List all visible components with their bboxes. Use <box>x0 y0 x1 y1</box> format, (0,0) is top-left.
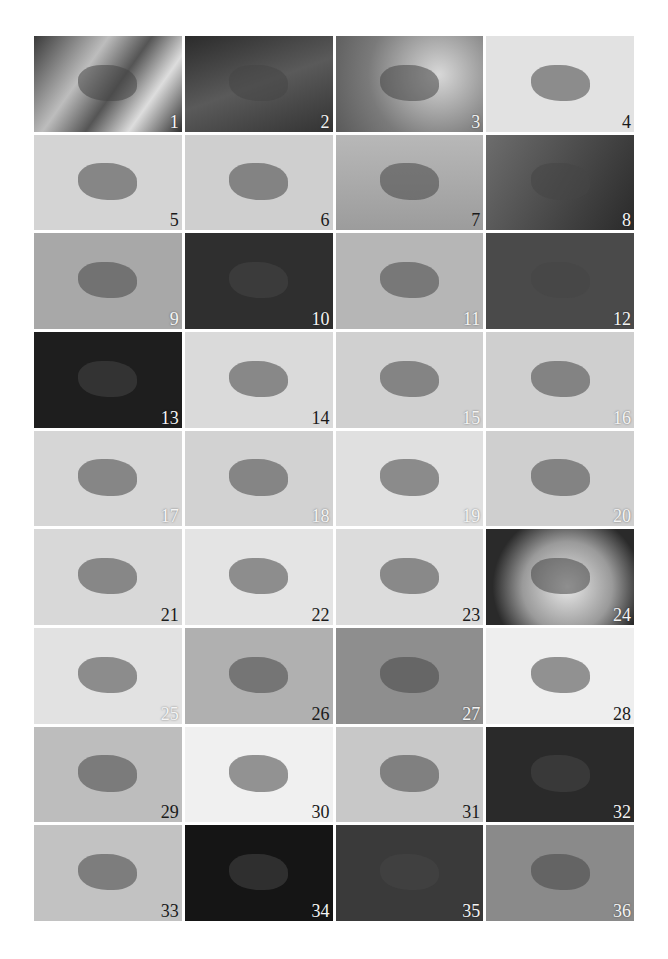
panel-number: 19 <box>462 507 480 525</box>
panel-number: 12 <box>613 310 631 328</box>
specimen-image <box>229 163 288 199</box>
specimen-image <box>380 65 439 101</box>
specimen-image <box>380 558 439 594</box>
specimen-image <box>531 459 590 495</box>
plate-panel-12: 12 <box>486 233 634 329</box>
specimen-image <box>229 558 288 594</box>
panel-number: 28 <box>613 705 631 723</box>
plate-panel-8: 8 <box>486 135 634 231</box>
plate-panel-15: 15 <box>336 332 484 428</box>
panel-number: 21 <box>161 606 179 624</box>
panel-number: 11 <box>463 310 480 328</box>
panel-number: 27 <box>462 705 480 723</box>
specimen-image <box>380 755 439 791</box>
plate-panel-35: 35 <box>336 825 484 921</box>
panel-number: 15 <box>462 409 480 427</box>
specimen-image <box>229 755 288 791</box>
panel-number: 3 <box>471 113 480 131</box>
specimen-image <box>380 361 439 397</box>
plate-panel-28: 28 <box>486 628 634 724</box>
panel-number: 6 <box>321 211 330 229</box>
plate-panel-6: 6 <box>185 135 333 231</box>
plate-panel-3: 3 <box>336 36 484 132</box>
plate-panel-24: 24 <box>486 529 634 625</box>
specimen-image <box>380 163 439 199</box>
plate-panel-27: 27 <box>336 628 484 724</box>
panel-number: 18 <box>312 507 330 525</box>
plate-panel-26: 26 <box>185 628 333 724</box>
plate-panel-17: 17 <box>34 431 182 527</box>
specimen-image <box>78 854 137 890</box>
panel-number: 14 <box>312 409 330 427</box>
panel-number: 1 <box>170 113 179 131</box>
specimen-image <box>78 262 137 298</box>
panel-number: 10 <box>312 310 330 328</box>
photo-plate: 1234567891011121314151617181920212223242… <box>34 36 634 921</box>
specimen-image <box>78 65 137 101</box>
panel-number: 13 <box>161 409 179 427</box>
plate-panel-20: 20 <box>486 431 634 527</box>
specimen-image <box>229 65 288 101</box>
specimen-image <box>229 459 288 495</box>
plate-panel-30: 30 <box>185 727 333 823</box>
plate-panel-33: 33 <box>34 825 182 921</box>
plate-panel-31: 31 <box>336 727 484 823</box>
panel-number: 35 <box>462 902 480 920</box>
specimen-image <box>531 558 590 594</box>
plate-panel-32: 32 <box>486 727 634 823</box>
panel-number: 7 <box>471 211 480 229</box>
panel-number: 4 <box>622 113 631 131</box>
panel-number: 30 <box>312 803 330 821</box>
specimen-image <box>229 854 288 890</box>
plate-panel-23: 23 <box>336 529 484 625</box>
specimen-image <box>531 755 590 791</box>
plate-panel-7: 7 <box>336 135 484 231</box>
specimen-image <box>78 755 137 791</box>
plate-panel-16: 16 <box>486 332 634 428</box>
specimen-image <box>380 459 439 495</box>
panel-number: 33 <box>161 902 179 920</box>
panel-number: 5 <box>170 211 179 229</box>
plate-panel-9: 9 <box>34 233 182 329</box>
specimen-image <box>380 657 439 693</box>
plate-panel-4: 4 <box>486 36 634 132</box>
specimen-image <box>531 361 590 397</box>
specimen-image <box>229 657 288 693</box>
specimen-image <box>229 361 288 397</box>
plate-panel-14: 14 <box>185 332 333 428</box>
specimen-image <box>531 262 590 298</box>
plate-panel-18: 18 <box>185 431 333 527</box>
panel-number: 25 <box>161 705 179 723</box>
plate-panel-11: 11 <box>336 233 484 329</box>
panel-number: 22 <box>312 606 330 624</box>
specimen-image <box>531 854 590 890</box>
specimen-image <box>78 163 137 199</box>
specimen-image <box>78 459 137 495</box>
specimen-image <box>531 65 590 101</box>
panel-number: 36 <box>613 902 631 920</box>
specimen-image <box>531 163 590 199</box>
panel-number: 24 <box>613 606 631 624</box>
panel-number: 26 <box>312 705 330 723</box>
specimen-image <box>78 657 137 693</box>
plate-panel-36: 36 <box>486 825 634 921</box>
plate-panel-10: 10 <box>185 233 333 329</box>
plate-panel-19: 19 <box>336 431 484 527</box>
panel-number: 34 <box>312 902 330 920</box>
panel-number: 16 <box>613 409 631 427</box>
panel-number: 8 <box>622 211 631 229</box>
panel-number: 9 <box>170 310 179 328</box>
plate-panel-29: 29 <box>34 727 182 823</box>
panel-number: 31 <box>462 803 480 821</box>
specimen-image <box>380 262 439 298</box>
panel-number: 17 <box>161 507 179 525</box>
panel-number: 32 <box>613 803 631 821</box>
panel-number: 20 <box>613 507 631 525</box>
specimen-image <box>531 657 590 693</box>
panel-number: 2 <box>321 113 330 131</box>
specimen-image <box>380 854 439 890</box>
plate-panel-5: 5 <box>34 135 182 231</box>
plate-panel-21: 21 <box>34 529 182 625</box>
panel-number: 29 <box>161 803 179 821</box>
specimen-image <box>78 361 137 397</box>
